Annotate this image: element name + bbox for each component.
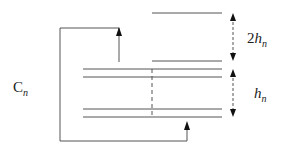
- arrowhead-up-icon: [230, 69, 236, 77]
- diagram-graphics: [0, 0, 281, 152]
- label-2hn: 2hn: [247, 30, 267, 49]
- arrowhead-up-icon: [184, 121, 190, 130]
- diagram: Cn 2hn hn: [0, 0, 281, 152]
- arrowhead-down-icon: [230, 109, 236, 117]
- arrowhead-down-icon: [230, 53, 236, 61]
- label-cn: Cn: [13, 79, 28, 98]
- label-hn: hn: [254, 85, 267, 104]
- feedback-loop-line: [60, 28, 187, 141]
- arrowhead-up-icon: [230, 13, 236, 21]
